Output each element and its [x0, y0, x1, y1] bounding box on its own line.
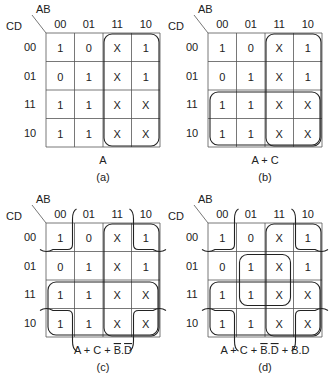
cell-value: 1 [219, 232, 225, 244]
cell-value: X [276, 318, 284, 330]
cell-value: 1 [248, 71, 254, 83]
col-header: 00 [54, 208, 66, 220]
row-variable-label: CD [6, 210, 22, 222]
col-header: 10 [302, 18, 314, 30]
cell-value: 1 [86, 289, 92, 301]
col-variable-label: AB [198, 3, 213, 15]
cell-value: 1 [86, 261, 92, 273]
col-variable-label: AB [36, 3, 51, 15]
row-header: 01 [186, 260, 198, 272]
karnaugh-maps-figure: ABCD000111100001111010X101X111XX11XXA(a)… [0, 0, 334, 380]
col-header: 11 [274, 208, 285, 220]
boolean-expression: A + C + B.D + B.D [221, 344, 310, 356]
cell-value: 1 [57, 99, 63, 111]
row-header: 11 [24, 288, 35, 300]
cell-value: 1 [219, 318, 225, 330]
cell-value: X [114, 71, 122, 83]
cell-value: 1 [219, 42, 225, 54]
cell-value: 1 [248, 99, 254, 111]
figure-caption: (b) [258, 171, 271, 183]
col-variable-label: AB [198, 193, 213, 205]
col-header: 10 [140, 18, 152, 30]
row-header: 01 [186, 70, 198, 82]
row-header: 00 [24, 41, 36, 53]
group-loop-BD-bottomright [130, 309, 167, 352]
cell-value: X [304, 318, 312, 330]
cell-value: 0 [219, 71, 225, 83]
cell-value: 0 [57, 71, 63, 83]
cell-value: 1 [219, 289, 225, 301]
row-header: 11 [186, 98, 197, 110]
cell-value: X [142, 128, 150, 140]
kmap-d: ABCD000111100001111010X101X111XX11XXA + … [168, 193, 328, 373]
cell-value: 1 [305, 71, 311, 83]
kmap-c: ABCD000111100001111010X101X111XX11XXA + … [6, 193, 166, 373]
cell-value: X [276, 71, 284, 83]
cell-value: 1 [86, 71, 92, 83]
row-header: 11 [24, 98, 35, 110]
cell-value: X [276, 99, 284, 111]
cell-value: 1 [57, 289, 63, 301]
row-header: 01 [24, 70, 36, 82]
corner-diagonal [32, 15, 46, 33]
cell-value: 0 [86, 232, 92, 244]
figure-caption: (a) [96, 171, 109, 183]
cell-value: X [114, 318, 122, 330]
cell-value: 1 [219, 99, 225, 111]
col-header: 10 [302, 208, 314, 220]
cell-value: X [304, 128, 312, 140]
cell-value: 1 [57, 42, 63, 54]
col-variable-label: AB [36, 193, 51, 205]
corner-diagonal [194, 15, 208, 33]
col-header: 11 [274, 18, 285, 30]
cell-value: 1 [86, 318, 92, 330]
cell-value: 1 [248, 289, 254, 301]
cell-value: 0 [248, 232, 254, 244]
cell-value: 1 [143, 232, 149, 244]
figure-caption: (d) [258, 361, 271, 373]
cell-value: X [114, 261, 122, 273]
row-header: 10 [24, 127, 36, 139]
group-loop-BD-bottomleft [40, 309, 77, 352]
col-header: 10 [140, 208, 152, 220]
row-header: 10 [24, 317, 36, 329]
cell-value: 1 [86, 128, 92, 140]
cell-value: 1 [248, 318, 254, 330]
cell-value: 1 [219, 128, 225, 140]
cell-value: 0 [219, 261, 225, 273]
cell-value: X [142, 289, 150, 301]
row-header: 01 [24, 260, 36, 272]
row-variable-label: CD [6, 20, 22, 32]
col-header: 01 [83, 208, 95, 220]
col-header: 11 [112, 18, 123, 30]
cell-value: X [276, 232, 284, 244]
cell-value: 1 [57, 232, 63, 244]
boolean-expression: A + C + B.D [74, 344, 132, 356]
corner-diagonal [32, 205, 46, 223]
cell-value: X [276, 42, 284, 54]
col-header: 00 [216, 208, 228, 220]
kmap-b: ABCD000111100001111010X101X111XX11XXA + … [168, 3, 322, 183]
col-header: 01 [245, 208, 257, 220]
col-header: 11 [112, 208, 123, 220]
cell-value: X [114, 128, 122, 140]
cell-value: X [304, 99, 312, 111]
cell-value: 1 [305, 42, 311, 54]
boolean-expression: A [99, 154, 107, 166]
row-header: 10 [186, 127, 198, 139]
corner-diagonal [194, 205, 208, 223]
cell-value: 1 [305, 261, 311, 273]
cell-value: X [114, 99, 122, 111]
cell-value: X [276, 261, 284, 273]
row-header: 11 [186, 288, 197, 300]
cell-value: 1 [57, 318, 63, 330]
cell-value: 0 [86, 42, 92, 54]
row-header: 00 [24, 231, 36, 243]
cell-value: X [276, 289, 284, 301]
col-header: 00 [54, 18, 66, 30]
cell-value: 0 [248, 42, 254, 54]
boolean-expression: A + C [251, 154, 278, 166]
col-header: 00 [216, 18, 228, 30]
kmap-a: ABCD000111100001111010X101X111XX11XXA(a) [6, 3, 160, 183]
cell-value: X [114, 232, 122, 244]
